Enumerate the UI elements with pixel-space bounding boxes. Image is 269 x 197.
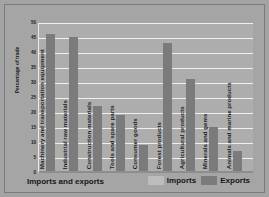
y-axis-tick-label: 10 <box>22 141 36 146</box>
category-label: Minerals and gems <box>202 113 208 169</box>
chart-legend: ImportsExports <box>148 176 250 185</box>
bar-series-container: Machinery and transportation equipmentIn… <box>39 23 253 172</box>
bar-exports[interactable] <box>69 37 78 172</box>
y-axis-tick-label: 5 <box>22 156 36 161</box>
bar-exports[interactable] <box>116 115 125 172</box>
bar-exports[interactable] <box>186 79 195 172</box>
legend-item[interactable]: Imports <box>148 176 196 185</box>
legend-swatch <box>148 176 164 185</box>
legend-label: Imports <box>167 176 196 185</box>
chart-figure: Percentage of trade 50454035302520151050… <box>0 0 269 197</box>
x-axis-title: Imports and exports <box>27 177 104 186</box>
category-label: Tools and spare parts <box>109 105 115 169</box>
bar-exports[interactable] <box>163 43 172 172</box>
y-axis-tick-label: 40 <box>22 51 36 56</box>
category-label: Animals and marine products <box>225 82 231 169</box>
category-label: Construction materials <box>85 102 91 169</box>
y-axis-tick-label: 30 <box>22 81 36 86</box>
bar-exports[interactable] <box>93 106 102 172</box>
legend-swatch <box>201 176 217 185</box>
y-axis-tick-label: 45 <box>22 36 36 41</box>
category-label: Forest products <box>155 122 161 169</box>
category-label: Industrial raw materials <box>62 100 68 169</box>
category-label: Consumer goods <box>132 118 138 169</box>
legend-item[interactable]: Exports <box>201 176 250 185</box>
y-axis-tick-label: 20 <box>22 111 36 116</box>
bar-group: Animals and marine products <box>230 23 253 172</box>
bar-exports[interactable] <box>46 34 55 172</box>
y-axis-tick-label: 0 <box>22 171 36 176</box>
y-axis-tick-label: 25 <box>22 96 36 101</box>
legend-label: Exports <box>220 176 250 185</box>
y-axis: 50454035302520151050 <box>19 23 36 173</box>
y-axis-tick-label: 35 <box>22 66 36 71</box>
y-axis-tick-label: 50 <box>22 21 36 26</box>
bar-exports[interactable] <box>139 145 148 172</box>
category-label: Agricultural products <box>179 106 185 169</box>
category-label: Machinery and transportation equipment <box>39 49 45 169</box>
bar-exports[interactable] <box>233 151 242 172</box>
y-axis-tick-label: 15 <box>22 126 36 131</box>
plot-area: Machinery and transportation equipmentIn… <box>38 23 253 173</box>
bar-exports[interactable] <box>209 127 218 172</box>
axis-baseline <box>39 171 253 172</box>
figure-border: Percentage of trade 50454035302520151050… <box>4 4 265 193</box>
